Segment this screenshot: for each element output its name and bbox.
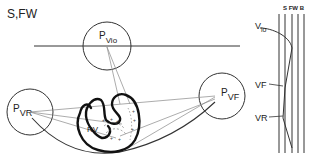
panel-label-vf: VF xyxy=(255,80,267,90)
svg-text:+: + xyxy=(131,126,134,132)
diagram-canvas: S,FW PVio PVR PVF +++ +++ ++ RV xyxy=(0,0,315,158)
panel-label-vio-sub: io xyxy=(261,26,267,33)
svg-text:+: + xyxy=(102,117,105,123)
vf-tick xyxy=(269,84,283,86)
svg-text:+: + xyxy=(116,118,119,124)
vr-tick xyxy=(269,116,283,117)
connector-lines xyxy=(30,47,215,148)
svg-text:+: + xyxy=(110,116,113,122)
panel-header: S FW B xyxy=(283,5,305,11)
svg-text:PVio: PVio xyxy=(99,30,118,45)
node-pvf-sub: VF xyxy=(228,92,240,102)
svg-text:+: + xyxy=(133,117,136,123)
node-pvr-sub: VR xyxy=(20,108,33,118)
panel-label-vr: VR xyxy=(255,113,268,123)
svg-text:+: + xyxy=(118,136,121,142)
node-pvf: PVF xyxy=(199,73,245,119)
diagram-title: S,FW xyxy=(7,7,38,21)
right-panel: S FW B Vio VF VR xyxy=(255,5,305,153)
svg-text:+: + xyxy=(110,135,113,141)
rv-label: RV xyxy=(87,125,99,134)
svg-text:+: + xyxy=(132,108,135,114)
node-pvio-sub: Vio xyxy=(106,36,118,45)
svg-text:Vio: Vio xyxy=(255,21,267,33)
svg-text:PVF: PVF xyxy=(221,87,240,102)
svg-text:PVR: PVR xyxy=(13,103,33,118)
